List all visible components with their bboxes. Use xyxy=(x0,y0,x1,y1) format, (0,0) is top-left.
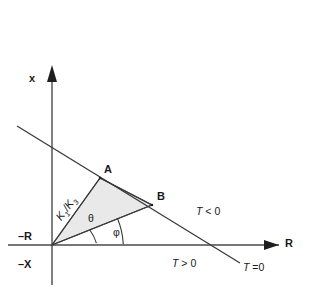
boundary-line-t-equals-zero xyxy=(17,126,240,263)
axis-label-r: R xyxy=(285,238,293,249)
region-label-t-less-than-zero: T < 0 xyxy=(196,206,220,217)
point-label-b: B xyxy=(157,191,165,202)
axis-label-negative-x: –X xyxy=(18,259,31,270)
point-label-a: A xyxy=(104,164,112,175)
vertical-axis-arrow-icon xyxy=(47,65,57,82)
boundary-label-t-equals-zero: T =0 xyxy=(243,262,264,273)
point-marker-b xyxy=(151,204,153,206)
angle-label-phi: φ xyxy=(113,227,120,238)
region-label-t-greater-than-zero: T > 0 xyxy=(172,258,196,269)
t-relation-boundary: =0 xyxy=(249,261,264,273)
angle-arc-theta xyxy=(90,230,97,243)
angle-label-theta: θ xyxy=(88,213,94,224)
t-relation-positive: > 0 xyxy=(178,257,196,269)
t-relation-negative: < 0 xyxy=(202,205,220,217)
point-marker-a xyxy=(99,177,101,179)
horizontal-axis-arrow-icon xyxy=(264,240,279,250)
diagram-canvas xyxy=(0,0,316,289)
geometry-figure: x R –R –X A B θ φ K1/K3 T < 0 T > 0 T =0 xyxy=(0,0,316,289)
axis-label-negative-r: –R xyxy=(18,231,32,242)
axis-label-x: x xyxy=(29,73,35,84)
